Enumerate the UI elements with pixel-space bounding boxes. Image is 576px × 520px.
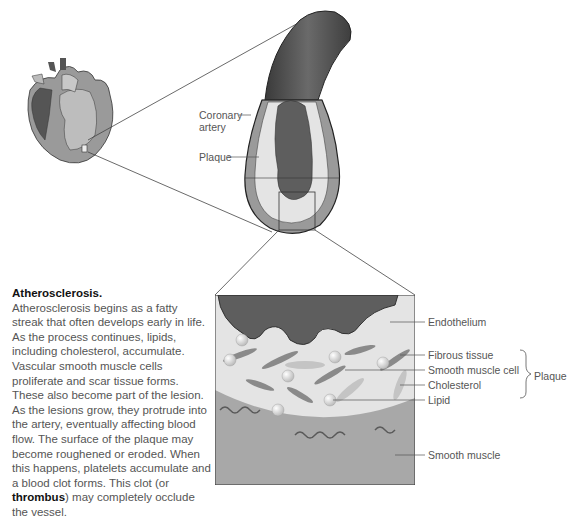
label-plaque: Plaque: [199, 151, 232, 163]
coronary-artery-illustration: [228, 11, 351, 233]
caption: Atherosclerosis. Atherosclerosis begins …: [12, 286, 212, 520]
label-endothelium: Endothelium: [428, 316, 486, 328]
caption-bold-term: thrombus: [12, 491, 65, 503]
label-smooth-muscle: Smooth muscle: [428, 449, 500, 461]
plaque-detail-illustration: [215, 295, 415, 485]
label-plaque-bracket: Plaque: [534, 370, 567, 382]
heart-illustration: [28, 58, 113, 163]
caption-title: Atherosclerosis.: [12, 286, 212, 301]
label-cholesterol: Cholesterol: [428, 379, 481, 391]
label-coronary: Coronary: [199, 109, 242, 121]
label-smooth-muscle-cell: Smooth muscle cell: [428, 364, 519, 376]
label-fibrous-tissue: Fibrous tissue: [428, 349, 493, 361]
label-coronary-artery: Coronary artery: [199, 109, 242, 133]
label-lipid: Lipid: [428, 394, 450, 406]
caption-body-before: Atherosclerosis begins as a fatty streak…: [12, 302, 211, 489]
heart-detail-marker: [82, 145, 87, 152]
label-artery: artery: [199, 121, 226, 133]
plaque-bracket: [520, 350, 531, 398]
